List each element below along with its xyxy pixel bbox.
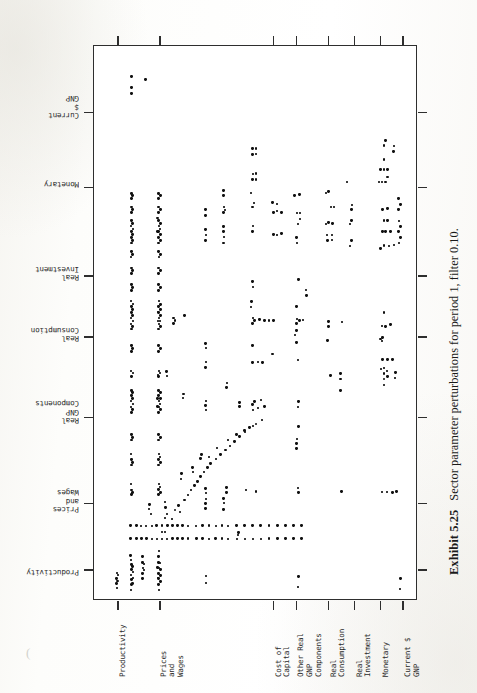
data-point (255, 153, 257, 155)
data-point (389, 323, 392, 326)
data-point (276, 234, 278, 236)
data-point (381, 181, 383, 183)
data-point (381, 208, 384, 211)
data-point (280, 211, 283, 214)
data-point (201, 524, 204, 527)
data-point (130, 375, 133, 378)
data-point (187, 525, 189, 527)
data-point (224, 449, 227, 452)
data-point (383, 219, 386, 222)
data-point (394, 371, 397, 374)
data-point (235, 524, 238, 527)
data-point (399, 225, 402, 228)
data-point (295, 322, 298, 325)
data-point (295, 329, 298, 332)
data-point (196, 480, 199, 483)
data-point (383, 311, 386, 314)
data-point (393, 244, 395, 246)
x-tick-bottom (402, 601, 403, 610)
data-point (391, 491, 394, 494)
data-point (326, 339, 329, 342)
data-point (131, 208, 134, 211)
data-point (276, 210, 278, 212)
data-point (238, 405, 241, 408)
data-point (164, 517, 166, 519)
data-point (276, 524, 279, 527)
data-point (386, 219, 389, 222)
data-point (130, 272, 133, 275)
data-point (243, 429, 246, 432)
data-point (261, 419, 263, 421)
data-point (159, 320, 161, 322)
x-tick-bottom (296, 601, 297, 610)
data-point (296, 318, 298, 320)
data-point (140, 525, 142, 527)
data-point (200, 453, 203, 456)
data-point (159, 580, 162, 583)
data-point (305, 289, 307, 291)
data-point (251, 147, 254, 150)
x-tick-bottom (354, 601, 355, 610)
data-point (297, 491, 300, 494)
data-point (159, 568, 162, 571)
data-point (181, 524, 184, 527)
data-point (130, 242, 133, 245)
data-point (172, 322, 175, 325)
data-point (164, 531, 166, 533)
data-point (171, 518, 173, 520)
data-point (225, 386, 228, 389)
data-point (130, 300, 132, 302)
data-point (276, 537, 279, 540)
y-tick-left (84, 503, 93, 504)
data-point (257, 407, 259, 409)
data-point (206, 466, 209, 469)
data-point (131, 582, 134, 585)
data-point (157, 197, 160, 200)
data-point (251, 524, 254, 527)
y-tick-left (84, 187, 93, 188)
data-point (253, 202, 255, 204)
data-point (245, 489, 247, 491)
data-point (191, 466, 194, 469)
data-point (223, 502, 225, 504)
data-point (204, 214, 207, 217)
data-point (131, 491, 134, 494)
data-point (158, 256, 160, 258)
y-tick-left (84, 336, 93, 337)
data-point (156, 538, 158, 540)
data-point (159, 347, 162, 350)
data-point (204, 502, 207, 505)
data-point (187, 494, 189, 496)
data-point (148, 503, 151, 506)
data-point (383, 378, 386, 381)
data-point (131, 391, 134, 394)
data-point (250, 192, 252, 194)
data-point (398, 242, 400, 244)
data-point (292, 524, 295, 527)
data-point (300, 524, 303, 527)
data-point (339, 389, 342, 392)
data-point (251, 280, 254, 283)
data-point (252, 173, 254, 175)
data-point (384, 181, 387, 184)
data-point (176, 524, 179, 527)
data-point (182, 397, 184, 399)
data-point (384, 325, 387, 328)
data-point (237, 534, 239, 536)
data-point (386, 168, 389, 171)
data-point (159, 308, 162, 311)
data-point (159, 456, 161, 458)
data-point (244, 431, 246, 433)
caption-number: Exhibit 5.25 (447, 510, 461, 575)
data-point (159, 491, 162, 494)
data-point (161, 538, 163, 540)
data-point (260, 538, 262, 540)
data-point (327, 320, 330, 323)
data-point (284, 537, 287, 540)
data-point (381, 336, 384, 339)
x-axis-label: GNP (413, 664, 421, 677)
data-point (214, 537, 217, 540)
data-point (159, 436, 162, 439)
data-point (159, 397, 162, 400)
data-point (297, 586, 299, 588)
